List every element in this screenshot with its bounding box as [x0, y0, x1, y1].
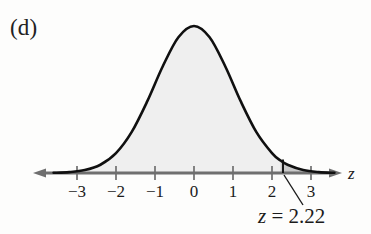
z-value-annotation: z = 2.22 — [258, 206, 325, 227]
tick-label--1: −1 — [138, 183, 172, 200]
annotation-variable: z — [258, 204, 266, 228]
tick-label--2: −2 — [99, 183, 133, 200]
tick-label-0: 0 — [177, 183, 211, 200]
tick-label-2: 2 — [255, 183, 289, 200]
curve-fill-area — [54, 26, 335, 173]
axis-arrow-left-icon — [33, 168, 46, 177]
tick-label--3: −3 — [60, 183, 94, 200]
annotation-value: 2.22 — [289, 204, 326, 228]
annotation-equals: = — [271, 204, 283, 228]
tick-label-1: 1 — [216, 183, 250, 200]
axis-label-z: z — [348, 165, 355, 182]
normal-distribution-figure: (d) −3−2−10123 z z = 2.22 — [0, 0, 371, 234]
tick-label-3: 3 — [294, 183, 328, 200]
